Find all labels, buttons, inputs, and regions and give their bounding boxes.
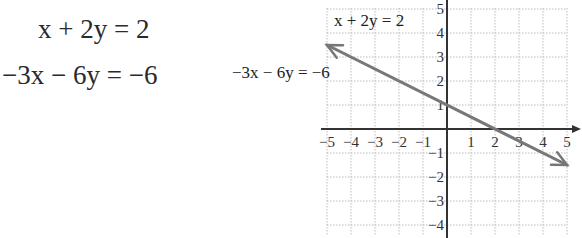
x-tick-label: −3 (367, 134, 383, 150)
x-tick-label: 2 (491, 134, 499, 150)
y-tick-label: −2 (428, 169, 444, 185)
y-tick-label: 4 (437, 25, 445, 41)
y-tick-label: 2 (437, 73, 445, 89)
x-tick-label: −5 (319, 134, 335, 150)
x-tick-label: 4 (539, 134, 547, 150)
x-tick-label: −2 (391, 134, 407, 150)
graph-label-1: x + 2y = 2 (334, 11, 404, 30)
y-tick-label: −4 (428, 217, 444, 233)
x-axis-arrow-icon (572, 125, 581, 133)
axes (321, 0, 581, 238)
y-tick-label: 5 (437, 1, 445, 17)
graph-label-2: −3x − 6y = −6 (232, 63, 330, 82)
coordinate-graph: −5−4−3−2−11234554321−1−2−3−4 x + 2y = 2 … (0, 0, 582, 238)
y-tick-label: −1 (428, 145, 444, 161)
y-tick-label: 3 (437, 49, 445, 65)
y-tick-label: −3 (428, 193, 444, 209)
x-tick-label: −4 (343, 134, 359, 150)
x-tick-label: 5 (563, 134, 571, 150)
tick-labels: −5−4−3−2−11234554321−1−2−3−4 (319, 1, 571, 233)
x-tick-label: 1 (467, 134, 475, 150)
